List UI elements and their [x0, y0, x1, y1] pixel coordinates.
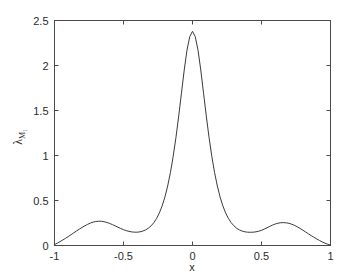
x-tick-label: 0.5: [254, 250, 269, 262]
y-tick-label: 0: [42, 240, 48, 252]
y-tick-label: 1: [42, 150, 48, 162]
y-tick-label: 1.5: [33, 105, 48, 117]
x-tick-label: -1: [50, 250, 60, 262]
chart-svg: -1-0.500.51 00.511.522.5 x λM₁: [0, 0, 343, 278]
y-tick-label: 0.5: [33, 195, 48, 207]
x-tick-label: 1: [327, 250, 333, 262]
chart-background: [0, 0, 343, 278]
chart-figure: -1-0.500.51 00.511.522.5 x λM₁: [0, 0, 343, 278]
y-axis-title-subscript: M₁: [18, 129, 27, 139]
x-axis-title: x: [189, 261, 195, 273]
y-tick-label: 2: [42, 60, 48, 72]
x-tick-label: 0: [189, 250, 195, 262]
y-tick-label: 2.5: [33, 15, 48, 27]
x-tick-label: -0.5: [114, 250, 133, 262]
